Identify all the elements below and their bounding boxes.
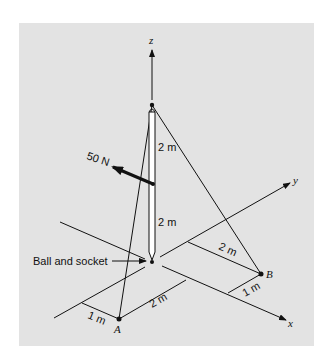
support-label: Ball and socket: [33, 255, 108, 267]
force-arrow: [113, 167, 153, 184]
x-axis-back: [60, 222, 145, 259]
point-b-label: B: [266, 268, 273, 280]
pole-diagram: z x y 50 N 2 m 2 m Ball and socket A B 1…: [0, 0, 330, 359]
a-offset-dimension: 1 m: [86, 309, 108, 327]
b-offset-dimension: 2 m: [217, 240, 239, 258]
y-axis-label: y: [292, 174, 298, 186]
z-axis-label: z: [148, 34, 154, 46]
cable-to-a: [119, 105, 152, 319]
pole-top-point: [150, 103, 154, 107]
x-axis-label: x: [287, 317, 293, 329]
point-b: [259, 272, 264, 277]
force-label: 50 N: [85, 149, 111, 168]
point-a-label: A: [113, 323, 121, 335]
cable-to-b: [152, 105, 261, 274]
ball-and-socket-point: [150, 260, 154, 264]
pole: [149, 112, 155, 260]
point-a: [117, 317, 122, 322]
a-along-dimension: 2 m: [147, 290, 169, 310]
pole-lower-dimension: 2 m: [158, 216, 176, 228]
pole-upper-dimension: 2 m: [158, 141, 176, 153]
b-along-dimension: 1 m: [240, 279, 262, 299]
